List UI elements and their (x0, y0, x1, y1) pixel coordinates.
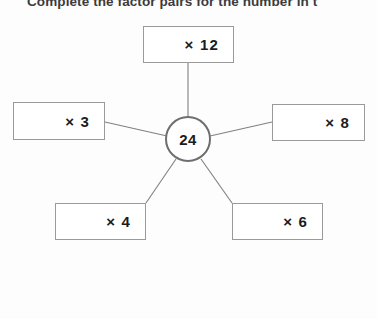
factor-box-bottom-right[interactable]: × 6 (232, 203, 323, 240)
factor-box-left[interactable]: × 3 (13, 102, 105, 140)
factor-box-bottom-left-label: × 4 (106, 213, 145, 230)
worksheet-page: Complete the factor pairs for the number… (0, 0, 377, 319)
factor-box-right-label: × 8 (325, 114, 364, 131)
center-number-node: 24 (165, 116, 211, 162)
factor-box-bottom-right-label: × 6 (283, 213, 322, 230)
factor-box-top[interactable]: × 12 (143, 26, 234, 63)
factor-box-right[interactable]: × 8 (272, 104, 365, 141)
factor-box-left-label: × 3 (65, 113, 104, 130)
connector-right (210, 122, 272, 136)
connector-bottom-left (146, 159, 176, 203)
factor-box-top-label: × 12 (185, 36, 233, 53)
factor-box-bottom-left[interactable]: × 4 (55, 203, 146, 240)
connector-bottom-right (201, 159, 232, 203)
center-number-label: 24 (179, 131, 197, 148)
connector-left (105, 122, 167, 136)
